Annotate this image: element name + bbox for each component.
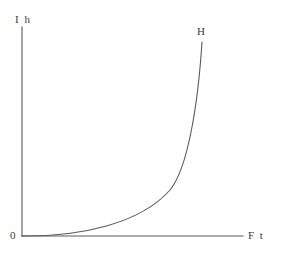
x-axis-label: F t bbox=[248, 230, 264, 241]
origin-label: 0 bbox=[10, 230, 16, 241]
plot-area bbox=[0, 0, 281, 262]
curve-end-label: H bbox=[197, 26, 205, 37]
figure-container: I h F t 0 H bbox=[0, 0, 281, 262]
exponential-curve bbox=[22, 42, 202, 236]
y-axis-label: I h bbox=[15, 14, 31, 25]
